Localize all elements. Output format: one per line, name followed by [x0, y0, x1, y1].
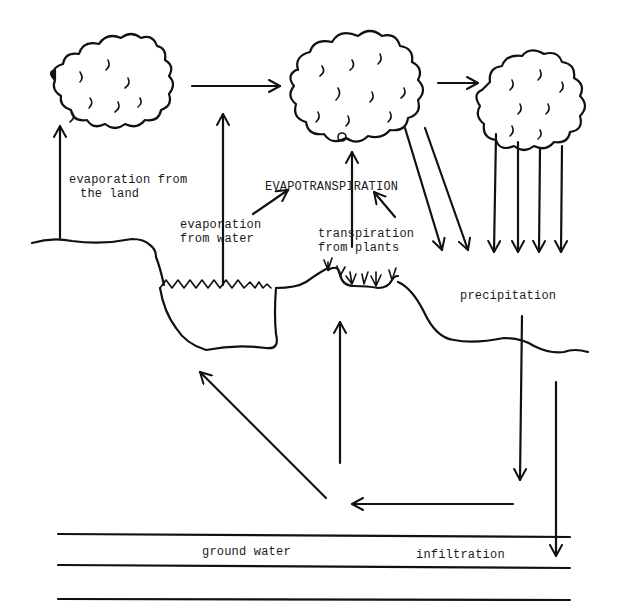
arrow-rain-4 — [561, 146, 562, 252]
ground-water-top-line — [58, 534, 570, 537]
label-evaporation-water-1: evaporation — [180, 218, 261, 232]
label-evaporation-land-2: the land — [80, 187, 139, 201]
label-transpiration-2: from plants — [318, 241, 399, 255]
lake — [160, 288, 277, 350]
label-evaporation-water-2: from water — [180, 232, 254, 246]
water-surface — [160, 280, 271, 288]
cloud-center-icon — [290, 31, 423, 142]
label-infiltration: infiltration — [416, 548, 505, 562]
cloud-right-icon — [476, 50, 585, 150]
water-cycle-diagram — [0, 0, 624, 607]
arrow-to-evapotranspiration-right — [374, 192, 395, 217]
plants-icon — [324, 258, 398, 288]
arrow-rain-diagonal-2 — [425, 128, 468, 250]
arrow-rain-1 — [494, 134, 496, 252]
label-precipitation: precipitation — [460, 289, 556, 303]
bedrock-line — [58, 599, 570, 600]
arrow-groundwater-to-lake — [200, 372, 326, 498]
label-ground-water: ground water — [202, 545, 291, 559]
label-transpiration-1: transpiration — [318, 227, 414, 241]
label-evaporation-land-1: evaporation from — [69, 173, 187, 187]
arrow-rain-3 — [539, 148, 540, 252]
label-evapotranspiration: EVAPOTRANSPIRATION — [265, 180, 398, 194]
cloud-left-icon — [51, 34, 173, 128]
ground-water-bottom-line — [58, 565, 570, 568]
